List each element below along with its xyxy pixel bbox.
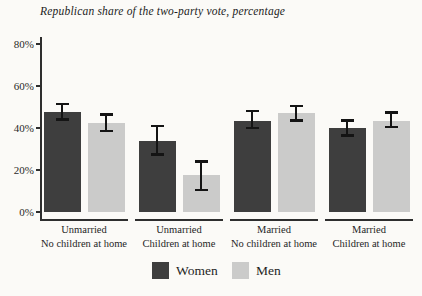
y-tick-label: 40% [4,121,34,135]
error-bar-cap-bottom [385,126,398,129]
legend-label-women: Women [176,262,218,279]
facet-label-line: Children at home [315,237,422,251]
figure: Republican share of the two-party vote, … [0,0,422,296]
facet-baseline [40,219,128,221]
y-tick-label: 0% [4,205,34,219]
y-tick-mark [36,127,41,129]
facet-baseline [135,219,223,221]
legend: WomenMen [0,262,422,282]
y-tick-label: 60% [4,79,34,93]
error-bar-line [105,114,107,131]
bar-women [329,128,366,212]
bar-men [373,121,410,212]
facet-label: UnmarriedNo children at home [30,223,138,251]
facet-label-line: Married [220,223,328,237]
facet-baseline [230,219,318,221]
error-bar-cap-bottom [341,134,354,137]
error-bar-cap-top [341,119,354,122]
bar-women [234,121,271,212]
error-bar-cap-top [290,105,303,108]
facet-label-line: No children at home [220,237,328,251]
error-bar-cap-bottom [246,127,259,130]
error-bar-line [156,126,158,154]
bar-men [278,113,315,212]
y-tick-mark [36,211,41,213]
error-bar-cap-top [56,103,69,106]
plot-area: 0%20%40%60%80%UnmarriedNo children at ho… [0,0,422,296]
legend-label-men: Men [256,262,281,279]
error-bar-cap-top [246,110,259,113]
error-bar-line [200,162,202,190]
error-bar-cap-bottom [56,118,69,121]
facet-label: MarriedChildren at home [315,223,422,251]
error-bar-line [61,104,63,120]
y-tick-mark [36,43,41,45]
error-bar-cap-top [195,160,208,163]
y-tick-mark [36,85,41,87]
y-tick-label: 80% [4,37,34,51]
error-bar-cap-top [385,111,398,114]
error-bar-line [251,111,253,128]
facet-label-line: Unmarried [30,223,138,237]
error-bar-cap-top [100,113,113,116]
bar-men [88,123,125,212]
facet-label-line: Unmarried [125,223,233,237]
y-tick-label: 20% [4,163,34,177]
error-bar-cap-bottom [151,153,164,156]
facet-baseline [325,219,413,221]
error-bar-cap-bottom [290,119,303,122]
facet-label-line: No children at home [30,237,138,251]
error-bar-cap-top [151,125,164,128]
facet-label-line: Married [315,223,422,237]
legend-swatch-men [232,262,249,279]
bar-women [44,112,81,212]
error-bar-cap-bottom [100,130,113,133]
error-bar-cap-bottom [195,189,208,192]
legend-swatch-women [152,262,169,279]
facet-label: MarriedNo children at home [220,223,328,251]
facet-label: UnmarriedChildren at home [125,223,233,251]
facet-label-line: Children at home [125,237,233,251]
y-tick-mark [36,169,41,171]
